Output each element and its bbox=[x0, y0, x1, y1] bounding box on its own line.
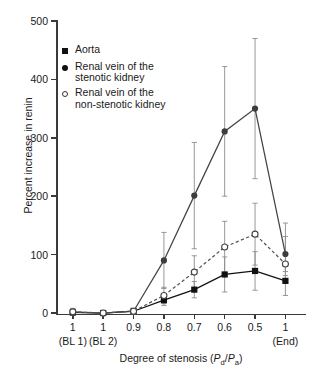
plot-data-layer bbox=[0, 0, 318, 376]
renin-stenosis-line-chart: 0100200300400500 Percent increase in ren… bbox=[0, 0, 318, 376]
series-0 bbox=[70, 268, 289, 316]
error-bars-2 bbox=[70, 203, 288, 315]
